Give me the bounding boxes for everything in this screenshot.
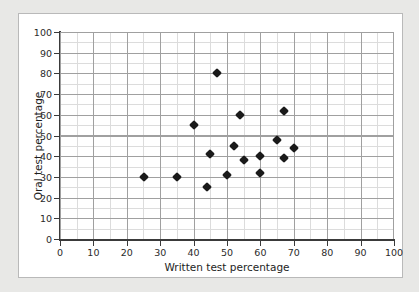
x-tick-mark bbox=[60, 241, 61, 246]
chart-card: Oral test percentage Written test percen… bbox=[18, 13, 403, 278]
x-tick-label: 100 bbox=[385, 247, 403, 258]
x-tick-label: 30 bbox=[154, 247, 166, 258]
y-tick-label: 90 bbox=[40, 47, 52, 58]
x-tick-label: 20 bbox=[121, 247, 133, 258]
scatter-point bbox=[229, 141, 239, 151]
x-tick-mark bbox=[194, 241, 195, 246]
y-tick-mark bbox=[54, 239, 59, 240]
y-tick-label: 10 bbox=[40, 213, 52, 224]
y-tick-mark bbox=[54, 136, 59, 137]
y-tick-mark bbox=[54, 156, 59, 157]
scatter-point bbox=[279, 153, 289, 163]
y-tick-label: 20 bbox=[40, 192, 52, 203]
x-tick-label: 40 bbox=[188, 247, 200, 258]
x-tick-mark bbox=[294, 241, 295, 246]
y-tick-mark bbox=[54, 53, 59, 54]
x-tick-label: 90 bbox=[355, 247, 367, 258]
scatter-point bbox=[255, 151, 265, 161]
x-tick-mark bbox=[327, 241, 328, 246]
x-tick-label: 10 bbox=[87, 247, 99, 258]
x-tick-mark bbox=[127, 241, 128, 246]
y-tick-label: 50 bbox=[40, 130, 52, 141]
x-tick-label: 70 bbox=[288, 247, 300, 258]
x-tick-label: 80 bbox=[321, 247, 333, 258]
x-tick-mark bbox=[160, 241, 161, 246]
x-tick-label: 60 bbox=[254, 247, 266, 258]
y-tick-mark bbox=[54, 115, 59, 116]
scatter-point bbox=[279, 106, 289, 116]
scatter-point bbox=[239, 155, 249, 165]
x-tick-label: 0 bbox=[57, 247, 63, 258]
x-tick-mark bbox=[227, 241, 228, 246]
plot-frame-right-edge bbox=[393, 32, 394, 239]
minor-gridlines bbox=[60, 32, 394, 239]
scatter-point bbox=[202, 182, 212, 192]
y-tick-mark bbox=[54, 177, 59, 178]
y-tick-label: 80 bbox=[40, 68, 52, 79]
plot-frame-top-edge bbox=[60, 32, 394, 33]
y-tick-label: 30 bbox=[40, 171, 52, 182]
scatter-point bbox=[189, 120, 199, 130]
major-gridlines bbox=[60, 32, 394, 239]
x-tick-mark bbox=[394, 241, 395, 246]
y-tick-label: 40 bbox=[40, 151, 52, 162]
y-tick-label: 60 bbox=[40, 109, 52, 120]
x-axis-title: Written test percentage bbox=[60, 261, 394, 273]
y-tick-label: 100 bbox=[34, 27, 52, 38]
y-tick-label: 0 bbox=[46, 234, 52, 245]
x-tick-mark bbox=[93, 241, 94, 246]
x-tick-mark bbox=[260, 241, 261, 246]
y-tick-label: 70 bbox=[40, 89, 52, 100]
scatter-point bbox=[172, 172, 182, 182]
scatter-point bbox=[212, 68, 222, 78]
scatter-point bbox=[272, 135, 282, 145]
y-tick-mark bbox=[54, 218, 59, 219]
plot-area bbox=[60, 32, 394, 239]
scatter-point bbox=[205, 149, 215, 159]
scatter-point bbox=[235, 110, 245, 120]
y-tick-label-group: 0102030405060708090100 bbox=[19, 14, 52, 277]
y-tick-mark bbox=[54, 73, 59, 74]
y-tick-mark bbox=[54, 94, 59, 95]
scatter-point bbox=[289, 143, 299, 153]
y-tick-mark bbox=[54, 198, 59, 199]
scatter-point bbox=[222, 170, 232, 180]
y-tick-mark bbox=[54, 32, 59, 33]
scatter-point bbox=[255, 168, 265, 178]
x-tick-label: 50 bbox=[221, 247, 233, 258]
x-tick-mark bbox=[361, 241, 362, 246]
scatter-point bbox=[139, 172, 149, 182]
